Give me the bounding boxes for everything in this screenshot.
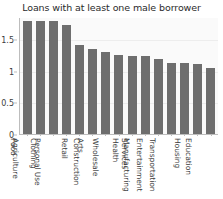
bar[interactable] xyxy=(206,68,215,134)
x-axis-tick-label: Manufacturing xyxy=(122,138,131,192)
bar-slot xyxy=(126,18,139,134)
x-axis-tick-mark xyxy=(53,134,54,136)
bar-slot xyxy=(204,18,217,134)
x-axis-tick-mark xyxy=(211,134,212,136)
bar[interactable] xyxy=(62,25,71,134)
bar-slot xyxy=(73,18,86,134)
bar[interactable] xyxy=(193,64,202,134)
x-axis-tick-label: Entertainment xyxy=(135,138,144,191)
y-axis-tick-mark xyxy=(14,135,17,136)
x-axis-slot: Education xyxy=(204,136,217,199)
chart-title: Loans with at least one male borrower xyxy=(0,2,223,13)
bar[interactable] xyxy=(167,63,176,134)
bar[interactable] xyxy=(141,56,150,134)
x-axis-tick-label: Housing xyxy=(173,138,182,168)
bar-slot xyxy=(99,18,112,134)
x-axis-slot: Clothing xyxy=(46,136,59,199)
chart-figure: Loans with at least one male borrower 00… xyxy=(0,0,223,199)
bar-slot xyxy=(47,18,60,134)
bar-slot xyxy=(139,18,152,134)
bar-slot xyxy=(178,18,191,134)
y-axis-tick-mark xyxy=(14,40,17,41)
x-axis-tick-mark xyxy=(105,134,106,136)
x-axis-tick-label: Transportation xyxy=(149,138,158,191)
bar[interactable] xyxy=(49,21,58,134)
x-axis-tick-label: Education xyxy=(183,138,192,175)
bar[interactable] xyxy=(114,55,123,134)
bar[interactable] xyxy=(88,49,97,134)
x-axis-tick-mark xyxy=(66,134,67,136)
x-axis-tick-mark xyxy=(79,134,80,136)
bar-slot xyxy=(86,18,99,134)
x-axis-slot: Housing xyxy=(191,136,204,199)
bar-slot xyxy=(165,18,178,134)
bar[interactable] xyxy=(75,45,84,134)
bar[interactable] xyxy=(23,21,32,134)
plot-area xyxy=(19,18,218,135)
bar-slot xyxy=(112,18,125,134)
x-axis-tick-mark xyxy=(40,134,41,136)
bar[interactable] xyxy=(154,59,163,134)
x-axis-tick-label: Personal Use xyxy=(33,138,42,186)
x-axis-tick-mark xyxy=(132,134,133,136)
x-axis-tick-mark xyxy=(197,134,198,136)
bar[interactable] xyxy=(128,56,137,134)
x-axis-tick-label: Health xyxy=(111,138,120,162)
bar[interactable] xyxy=(101,52,110,134)
x-axis-tick-label: Agriculture xyxy=(10,138,19,179)
y-axis-tick-mark xyxy=(14,71,17,72)
bar-slot xyxy=(152,18,165,134)
y-axis-tick-label: 1.5 xyxy=(1,36,14,45)
x-axis-tick-mark xyxy=(27,134,28,136)
x-axis-tick-label: Wholesale xyxy=(90,138,99,176)
x-axis-tick-mark xyxy=(119,134,120,136)
x-axis-tick-mark xyxy=(145,134,146,136)
x-axis-tick-mark xyxy=(184,134,185,136)
x-axis: FoodAgricultureClothingPersonal UseRetai… xyxy=(19,136,218,199)
x-axis-tick-label: Construction xyxy=(73,138,82,185)
y-axis-tick-label: 0.5 xyxy=(1,99,14,108)
y-axis: 00.511.5 xyxy=(0,18,17,135)
y-axis-tick-mark xyxy=(14,103,17,104)
bar[interactable] xyxy=(36,21,45,134)
bar-slot xyxy=(21,18,34,134)
x-axis-tick-label: Retail xyxy=(60,138,69,159)
bar-slot xyxy=(34,18,47,134)
bar-series xyxy=(20,18,218,134)
x-axis-tick-mark xyxy=(92,134,93,136)
bar-slot xyxy=(191,18,204,134)
x-axis-tick-mark xyxy=(158,134,159,136)
bar-slot xyxy=(60,18,73,134)
bar[interactable] xyxy=(180,63,189,134)
x-axis-tick-mark xyxy=(171,134,172,136)
